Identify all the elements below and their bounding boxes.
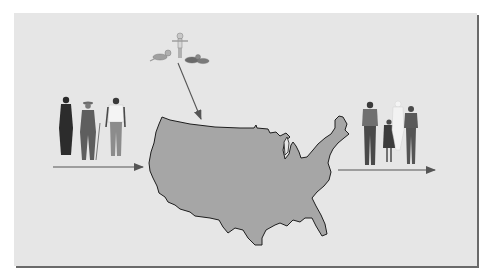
emigrant-figures-icon [362,101,418,165]
births-figures-icon [150,33,209,64]
diagram-canvas [0,0,490,277]
usa-map-icon [149,116,349,245]
immigrant-figures-icon [59,97,125,160]
births-arrow [178,63,201,119]
